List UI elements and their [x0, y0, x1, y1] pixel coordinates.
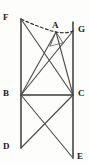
vertex-label-E: E: [77, 152, 83, 161]
segment-diagonal-B-A: [21, 32, 56, 95]
segment-diagonal-B-E: [21, 95, 73, 158]
geometry-canvas: [0, 0, 89, 164]
vertex-label-A: A: [52, 21, 59, 30]
geometry-figure: F A G B C D E: [0, 0, 89, 164]
vertex-label-F: F: [3, 13, 9, 22]
vertex-label-C: C: [78, 89, 85, 98]
vertex-label-G: G: [78, 25, 85, 34]
vertex-label-B: B: [3, 89, 9, 98]
segment-apex-left: [50, 32, 56, 46]
segment-diagonal-C-D: [21, 95, 73, 148]
segment-diagonal-F-C: [21, 19, 73, 95]
segment-diagonal-B-G: [21, 31, 73, 95]
vertex-label-D: D: [3, 142, 10, 151]
